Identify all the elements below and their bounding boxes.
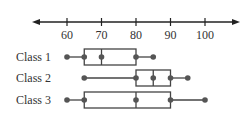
right-arrow-icon: [232, 19, 240, 25]
left-arrow-icon: [32, 19, 40, 25]
min-point: [64, 54, 70, 60]
tick-label: 70: [96, 28, 108, 42]
iqr-box: [84, 92, 170, 108]
q3-point: [133, 54, 139, 60]
box-plot-rows: Class 1Class 2Class 3: [16, 49, 208, 108]
q1-point: [81, 97, 87, 103]
q3-point: [168, 97, 174, 103]
q1-point: [133, 75, 139, 81]
box-plot-chart: 60708090100 Class 1Class 2Class 3: [0, 0, 251, 123]
tick-label: 90: [165, 28, 177, 42]
median-point: [150, 75, 156, 81]
max-point: [150, 54, 156, 60]
box-plot-row: Class 3: [16, 92, 208, 108]
row-label: Class 1: [16, 50, 51, 64]
min-point: [81, 75, 87, 81]
q1-point: [81, 54, 87, 60]
median-point: [99, 54, 105, 60]
max-point: [202, 97, 208, 103]
tick-label: 100: [196, 28, 214, 42]
min-point: [64, 97, 70, 103]
box-plot-row: Class 2: [16, 70, 191, 86]
q3-point: [168, 75, 174, 81]
tick-label: 80: [130, 28, 142, 42]
row-label: Class 2: [16, 71, 51, 85]
iqr-box: [84, 49, 136, 65]
box-plot-row: Class 1: [16, 49, 156, 65]
max-point: [185, 75, 191, 81]
tick-label: 60: [61, 28, 73, 42]
median-point: [133, 97, 139, 103]
row-label: Class 3: [16, 93, 51, 107]
